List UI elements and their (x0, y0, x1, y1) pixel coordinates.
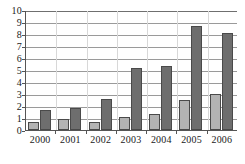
x-tick-label-2005: 2005 (175, 134, 209, 146)
y-tick-label-0: 0 (2, 126, 22, 136)
x-axis: 2000200120022003200420052006 (25, 134, 237, 154)
y-tick-mark-0 (22, 131, 25, 132)
y-tick-label-5: 5 (2, 66, 22, 76)
bar-group-2002 (87, 11, 117, 130)
y-tick-mark-10 (22, 11, 25, 12)
y-tick-label-1: 1 (2, 114, 22, 124)
y-tick-label-8: 8 (2, 30, 22, 40)
bar-light-gray-series-2005 (179, 100, 190, 130)
bar-group-2003 (117, 11, 147, 130)
bar-light-gray-series-2000 (28, 122, 39, 130)
bar-dark-gray-series-2003 (131, 68, 142, 130)
x-tick-mark-2003 (146, 131, 147, 134)
y-tick-mark-7 (22, 47, 25, 48)
x-tick-label-2006: 2006 (205, 134, 239, 146)
x-tick-mark-2000 (55, 131, 56, 134)
y-tick-label-7: 7 (2, 42, 22, 52)
x-tick-mark-2002 (116, 131, 117, 134)
bar-dark-gray-series-2001 (70, 108, 81, 130)
y-tick-label-3: 3 (2, 90, 22, 100)
bar-dark-gray-series-2000 (40, 110, 51, 130)
bar-group-2006 (208, 11, 238, 130)
x-tick-label-2003: 2003 (114, 134, 148, 146)
y-tick-label-2: 2 (2, 102, 22, 112)
y-axis: 012345678910 (0, 0, 22, 164)
plot-area (25, 11, 237, 131)
bar-dark-gray-series-2005 (191, 26, 202, 130)
bar-group-2005 (177, 11, 207, 130)
y-tick-mark-8 (22, 35, 25, 36)
y-tick-label-10: 10 (2, 6, 22, 16)
bar-light-gray-series-2006 (210, 94, 221, 130)
bar-group-2004 (147, 11, 177, 130)
bar-light-gray-series-2002 (89, 122, 100, 130)
x-tick-label-2001: 2001 (53, 134, 87, 146)
y-tick-label-4: 4 (2, 78, 22, 88)
x-tick-mark-2001 (86, 131, 87, 134)
x-tick-label-2000: 2000 (23, 134, 57, 146)
y-tick-mark-5 (22, 71, 25, 72)
y-tick-label-9: 9 (2, 18, 22, 28)
bar-dark-gray-series-2006 (222, 33, 233, 130)
y-tick-mark-1 (22, 119, 25, 120)
bar-light-gray-series-2003 (119, 117, 130, 130)
bar-chart: 012345678910 200020012002200320042005200… (0, 0, 245, 164)
y-tick-mark-2 (22, 107, 25, 108)
bar-dark-gray-series-2004 (161, 66, 172, 130)
x-tick-mark-2004 (176, 131, 177, 134)
bar-light-gray-series-2004 (149, 114, 160, 130)
bar-group-2000 (26, 11, 56, 130)
y-tick-mark-4 (22, 83, 25, 84)
x-tick-label-2002: 2002 (84, 134, 118, 146)
x-tick-label-2004: 2004 (144, 134, 178, 146)
y-tick-mark-3 (22, 95, 25, 96)
x-tick-mark-2005 (207, 131, 208, 134)
y-tick-mark-9 (22, 23, 25, 24)
bar-group-2001 (56, 11, 86, 130)
y-tick-mark-6 (22, 59, 25, 60)
bar-light-gray-series-2001 (58, 119, 69, 130)
bar-dark-gray-series-2002 (101, 99, 112, 130)
y-tick-label-6: 6 (2, 54, 22, 64)
